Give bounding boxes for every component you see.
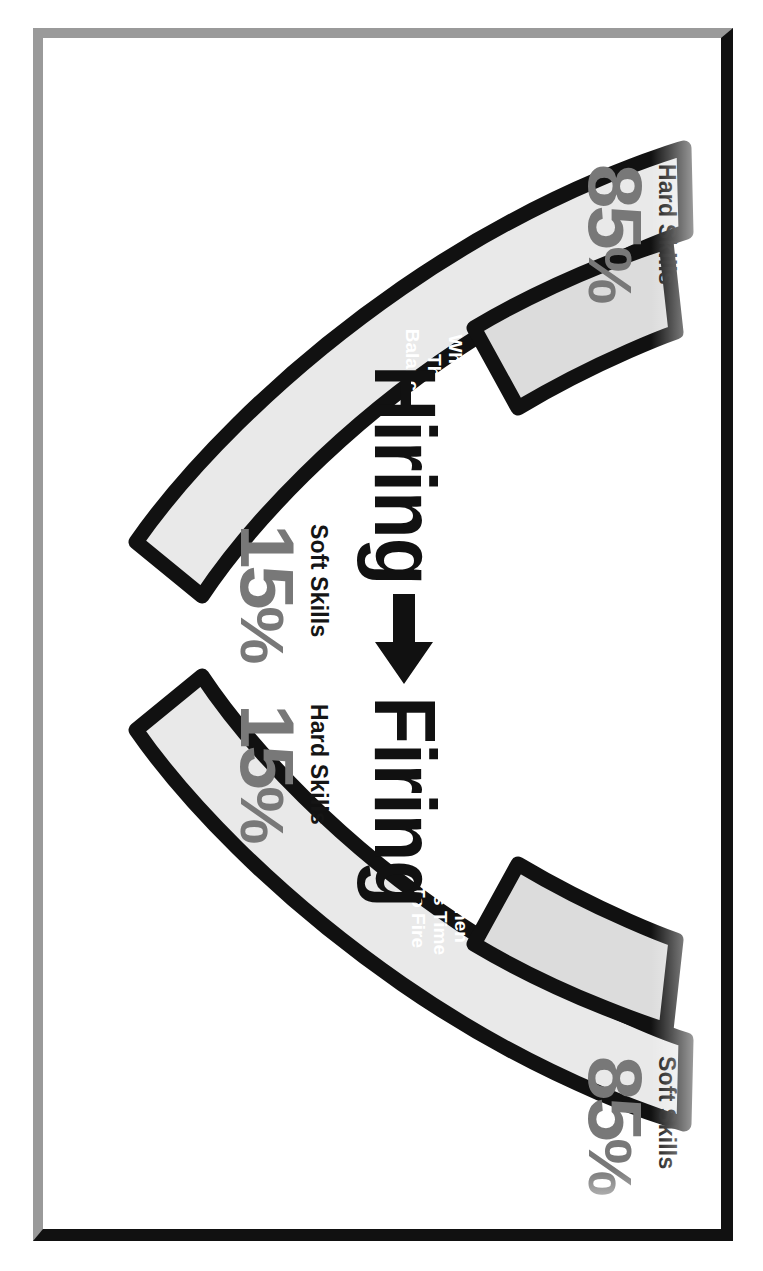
label-hiring-hard-skills: Hard Skills 85% [577, 164, 678, 296]
poster-canvas: Where's The Balance? When It's Time To F… [0, 0, 763, 1271]
label-firing-hard-skills: Hard Skills 15% [229, 704, 330, 836]
title-word-firing: Firing [353, 696, 455, 907]
title-word-hiring: Hiring [353, 365, 455, 584]
label-percent-value: 15 [225, 524, 310, 606]
label-firing-soft-skills: Soft Skills 85% [577, 1056, 678, 1188]
label-percent-unit: % [228, 606, 297, 662]
label-percent: 15% [229, 704, 305, 842]
label-percent: 15% [229, 524, 305, 662]
poster-title: Hiring Firing [359, 56, 450, 1216]
label-percent-value: 15 [225, 704, 310, 786]
label-percent-value: 85 [573, 1056, 658, 1138]
label-percent: 85% [577, 164, 653, 302]
label-percent-unit: % [576, 1138, 645, 1194]
label-hiring-soft-skills: Soft Skills 15% [229, 524, 330, 656]
label-percent-unit: % [228, 786, 297, 842]
label-percent-value: 85 [573, 164, 658, 246]
label-percent: 85% [577, 1056, 653, 1194]
label-percent-unit: % [576, 246, 645, 302]
right-arrow-icon [367, 594, 437, 686]
poster-stage: Where's The Balance? When It's Time To F… [62, 56, 702, 1216]
poster-artwork: Where's The Balance? When It's Time To F… [62, 56, 702, 1216]
